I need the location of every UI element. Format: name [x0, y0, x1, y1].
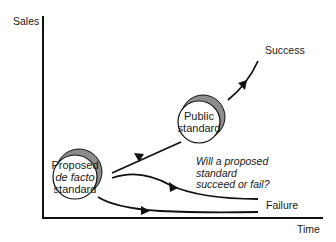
arrow-icon — [134, 153, 144, 162]
arrow-icon — [141, 206, 150, 215]
question-text: Will a proposed standard succeed or fail… — [196, 156, 270, 191]
proposed-line1: Proposed — [49, 159, 101, 171]
proposed-line2: de facto — [49, 171, 101, 183]
question-line1: Will a proposed — [196, 156, 270, 168]
path-lower-failure — [98, 197, 258, 212]
question-line3: succeed or fail? — [196, 179, 270, 191]
x-axis-label: Time — [297, 223, 320, 235]
failure-label: Failure — [266, 199, 298, 211]
path-to-public-standard — [112, 142, 181, 173]
public-node-label: Public standard — [176, 110, 222, 134]
public-line2: standard — [176, 122, 222, 134]
path-to-success — [228, 61, 258, 100]
public-line1: Public — [176, 110, 222, 122]
proposed-node-label: Proposed de facto standard — [49, 159, 101, 195]
y-axis-label: Sales — [13, 15, 39, 27]
proposed-line3: standard — [49, 183, 101, 195]
success-label: Success — [265, 44, 305, 56]
